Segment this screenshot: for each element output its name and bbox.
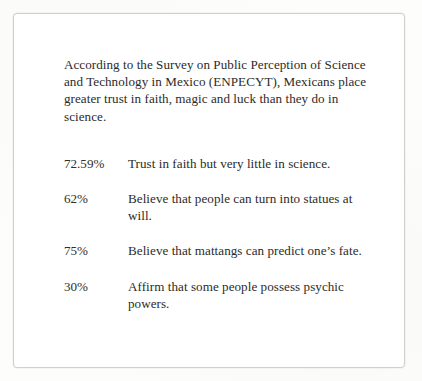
statistics-list: 72.59% Trust in faith but very little in… bbox=[64, 155, 374, 312]
list-item: 72.59% Trust in faith but very little in… bbox=[64, 155, 374, 172]
statistic-percent: 30% bbox=[64, 278, 128, 295]
list-item: 30% Affirm that some people possess psyc… bbox=[64, 278, 374, 312]
intro-paragraph: According to the Survey on Public Percep… bbox=[64, 56, 370, 125]
statistic-percent: 72.59% bbox=[64, 155, 128, 172]
statistic-description: Believe that mattangs can predict one’s … bbox=[128, 242, 362, 259]
statistic-description: Believe that people can turn into statue… bbox=[128, 190, 362, 224]
statistic-percent: 75% bbox=[64, 242, 128, 259]
document-content: According to the Survey on Public Percep… bbox=[64, 56, 374, 312]
page-root: According to the Survey on Public Percep… bbox=[0, 0, 422, 381]
list-item: 62% Believe that people can turn into st… bbox=[64, 190, 374, 224]
statistic-description: Trust in faith but very little in scienc… bbox=[128, 155, 362, 172]
statistic-percent: 62% bbox=[64, 190, 128, 207]
statistic-description: Affirm that some people possess psychic … bbox=[128, 278, 362, 312]
document-card: According to the Survey on Public Percep… bbox=[13, 13, 405, 368]
list-item: 75% Believe that mattangs can predict on… bbox=[64, 242, 374, 259]
